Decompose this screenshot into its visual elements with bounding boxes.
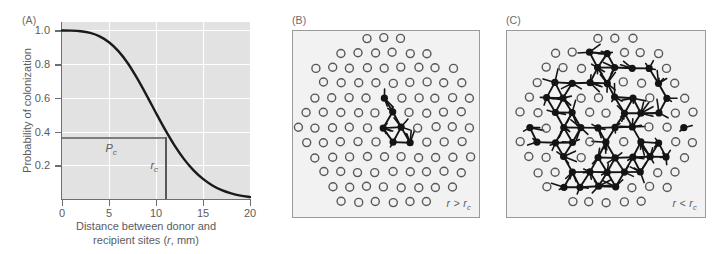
uncolonized-site	[371, 169, 379, 177]
colonized-site	[595, 154, 602, 161]
uncolonized-site	[671, 109, 679, 117]
uncolonized-site	[620, 138, 628, 146]
colonized-site	[612, 154, 619, 161]
colonized-site	[560, 124, 567, 131]
colonized-site	[551, 79, 558, 86]
uncolonized-site	[415, 94, 423, 102]
uncolonized-site	[621, 49, 629, 57]
uncolonized-site	[337, 50, 345, 58]
uncolonized-site	[320, 168, 328, 176]
colonized-site	[569, 109, 576, 116]
uncolonized-site	[406, 78, 414, 86]
panel-c: (C) r < rc	[500, 0, 716, 254]
uncolonized-site	[450, 64, 458, 72]
colonized-site	[612, 183, 619, 190]
uncolonized-site	[663, 64, 671, 72]
uncolonized-site	[542, 153, 550, 161]
uncolonized-site	[363, 35, 371, 43]
uncolonized-site	[467, 153, 475, 161]
uncolonized-site	[405, 108, 413, 116]
uncolonized-site	[303, 139, 311, 147]
uncolonized-site	[337, 197, 345, 205]
uncolonized-site	[381, 153, 389, 161]
uncolonized-site	[671, 79, 679, 87]
uncolonized-site	[569, 198, 577, 206]
uncolonized-site	[559, 64, 567, 72]
uncolonized-site	[345, 94, 353, 102]
uncolonized-site	[415, 154, 423, 162]
uncolonized-site	[319, 139, 327, 147]
uncolonized-site	[337, 79, 345, 87]
uncolonized-site	[406, 50, 414, 58]
uncolonized-site	[646, 94, 654, 102]
panel-c-condition-label: r < rc	[672, 197, 697, 212]
panel-c-condition-main: r < r	[672, 197, 692, 209]
uncolonized-site	[534, 169, 542, 177]
uncolonized-site	[611, 34, 619, 42]
uncolonized-site	[440, 108, 448, 116]
colonized-site	[629, 65, 636, 72]
uncolonized-site	[389, 168, 397, 176]
uncolonized-site	[371, 109, 379, 117]
uncolonized-site	[389, 79, 397, 87]
uncolonized-site	[681, 154, 689, 162]
colonized-site	[586, 168, 593, 175]
uncolonized-site	[525, 153, 533, 161]
uncolonized-site	[372, 138, 380, 146]
colonized-site	[604, 169, 611, 176]
panel-b: (B) r > rc	[286, 0, 486, 254]
uncolonized-site	[355, 198, 363, 206]
uncolonized-site	[465, 124, 473, 132]
colonization-probability-curve	[0, 0, 262, 254]
panel-b-site-lattice	[293, 31, 480, 218]
uncolonized-site	[602, 199, 610, 207]
uncolonized-site	[645, 123, 653, 131]
uncolonized-site	[449, 183, 457, 191]
colonized-site	[390, 139, 397, 146]
uncolonized-site	[431, 94, 439, 102]
uncolonized-site	[637, 197, 645, 205]
uncolonized-site	[415, 184, 423, 192]
colonized-site	[647, 153, 654, 160]
colonized-site	[604, 80, 611, 87]
uncolonized-site	[578, 65, 586, 73]
colonized-site	[637, 110, 644, 117]
uncolonized-site	[302, 109, 310, 117]
uncolonized-site	[345, 64, 353, 72]
colonized-site	[560, 184, 567, 191]
uncolonized-site	[319, 108, 327, 116]
uncolonized-site	[388, 48, 396, 56]
uncolonized-site	[423, 109, 431, 117]
lattice-sites	[516, 34, 697, 206]
colonized-site	[629, 95, 636, 102]
colonized-site	[602, 139, 609, 146]
colonized-site	[604, 50, 611, 57]
uncolonized-site	[380, 64, 388, 72]
uncolonized-site	[346, 183, 354, 191]
uncolonized-site	[449, 153, 457, 161]
uncolonized-site	[681, 94, 689, 102]
uncolonized-site	[568, 48, 576, 56]
panel-c-condition-sub: c	[693, 203, 697, 212]
uncolonized-site	[328, 94, 336, 102]
uncolonized-site	[594, 35, 602, 43]
colonized-site	[577, 124, 584, 131]
uncolonized-site	[355, 79, 363, 87]
uncolonized-site	[431, 64, 439, 72]
panel-b-lattice-frame: r > rc	[292, 30, 480, 218]
uncolonized-site	[311, 124, 319, 132]
uncolonized-site	[543, 183, 551, 191]
uncolonized-site	[585, 198, 593, 206]
uncolonized-site	[431, 184, 439, 192]
uncolonized-site	[577, 154, 585, 162]
uncolonized-site	[311, 154, 319, 162]
uncolonized-site	[654, 169, 662, 177]
uncolonized-site	[397, 34, 405, 42]
panel-b-condition-main: r > r	[446, 197, 466, 209]
colonized-site	[621, 110, 628, 117]
uncolonized-site	[329, 63, 337, 71]
colonized-site	[552, 139, 559, 146]
figure-container: (A) 1.00.80.60.40.2 05101520 Probability…	[0, 0, 716, 254]
colonized-site	[569, 80, 576, 87]
uncolonized-site	[663, 184, 671, 192]
